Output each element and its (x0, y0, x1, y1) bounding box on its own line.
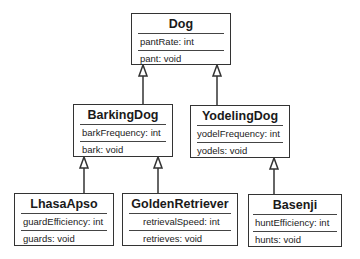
class-barkingdog: BarkingDog barkFrequency: int bark: void (73, 104, 173, 157)
inheritance-arrowhead-icon (80, 157, 88, 168)
inheritance-arrowhead-icon (270, 158, 278, 169)
class-method: retrieves: void (123, 231, 237, 247)
class-attribute: barkFrequency: int (74, 125, 172, 141)
class-goldenretriever: GoldenRetriever retrievalSpeed: int retr… (122, 193, 238, 246)
inheritance-arrowhead-icon (154, 157, 162, 168)
class-attribute: pantRate: int (132, 34, 230, 50)
class-name: GoldenRetriever (123, 194, 237, 213)
class-method: hunts: void (249, 232, 341, 248)
class-method: pant: void (132, 51, 230, 67)
class-name: YodelingDog (191, 106, 289, 125)
class-method: yodels: void (191, 143, 289, 159)
class-attribute: guardEfficiency: int (15, 214, 113, 230)
class-name: Dog (132, 14, 230, 33)
class-basenji: Basenji huntEfficiency: int hunts: void (248, 194, 342, 247)
class-name: LhasaApso (15, 194, 113, 213)
class-attribute: huntEfficiency: int (249, 215, 341, 231)
class-name: Basenji (249, 195, 341, 214)
class-lhasaapso: LhasaApso guardEfficiency: int guards: v… (14, 193, 114, 246)
class-name: BarkingDog (74, 105, 172, 124)
class-method: bark: void (74, 142, 172, 158)
class-yodelingdog: YodelingDog yodelFrequency: int yodels: … (190, 105, 290, 158)
class-dog: Dog pantRate: int pant: void (131, 13, 231, 65)
class-method: guards: void (15, 231, 113, 247)
class-attribute: yodelFrequency: int (191, 126, 289, 142)
class-attribute: retrievalSpeed: int (123, 214, 237, 230)
